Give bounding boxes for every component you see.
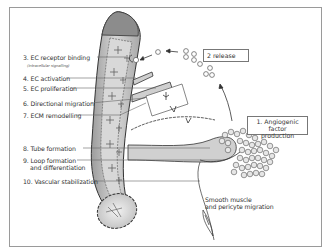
step-9-label: 9. Loop formation — [23, 157, 76, 164]
smooth-muscle-label-line2: and pericyte migration — [205, 203, 274, 210]
step-4-label: 4. EC activation — [23, 75, 70, 82]
step-10-label: 10. Vascular stabilization — [23, 178, 98, 185]
step-1-label: 1. Angiogenic factor — [248, 118, 307, 132]
step-1-label-line2: production — [248, 132, 307, 139]
blood-vessel — [91, 12, 141, 234]
step-9-label-line2: and differentiation — [30, 164, 85, 171]
step-5-label: 5. EC proliferation — [23, 85, 77, 92]
step-3-sublabel: (intracellular signalling) — [27, 62, 69, 69]
step-7-label: 7. ECM remodelling — [23, 112, 81, 119]
smooth-muscle-label: Smooth muscle — [205, 196, 252, 203]
step-6-label: 6. Directional migration — [23, 100, 94, 107]
step-2-box: 2 release — [203, 49, 249, 62]
step-8-label: 8. Tube formation — [23, 145, 76, 152]
step-1-box: 1. Angiogenic factor production — [247, 116, 308, 135]
step-3-label: 3. EC receptor binding — [23, 54, 90, 61]
sprout-branches — [128, 72, 240, 162]
step-2-label: 2 release — [207, 52, 235, 59]
